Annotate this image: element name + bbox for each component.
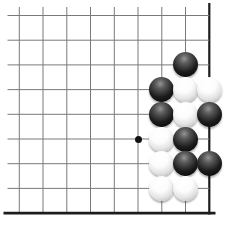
white-stone	[173, 176, 198, 201]
black-stone	[173, 127, 198, 152]
white-stone	[173, 77, 198, 102]
hoshi-point	[135, 136, 142, 143]
black-stone	[197, 102, 222, 127]
black-stone	[149, 102, 174, 127]
white-stone	[149, 127, 174, 152]
white-stone	[197, 77, 222, 102]
white-stone	[173, 102, 198, 127]
go-board[interactable]	[0, 0, 233, 225]
black-stone	[197, 151, 222, 176]
